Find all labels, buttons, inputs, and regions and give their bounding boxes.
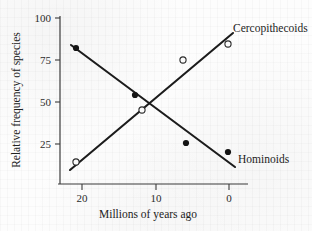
hominoids-point-2	[132, 92, 138, 98]
y-tick-label-75: 75	[40, 54, 52, 66]
hominoids-point-1	[73, 45, 79, 51]
y-tick-label-100: 100	[35, 12, 52, 24]
cercopithecoids-series-label: Cercopithecoids	[233, 22, 308, 35]
y-tick-label-group: 100 75 50 25	[35, 12, 52, 150]
y-tick-label-25: 25	[40, 138, 52, 150]
y-tick-label-50: 50	[40, 96, 52, 108]
series-cercopithecoids: Cercopithecoids	[70, 22, 308, 170]
cercopithecoids-point-2	[139, 107, 145, 113]
y-axis-title: Relative frequency of species	[10, 32, 23, 168]
cercopithecoids-trend-line	[70, 33, 233, 170]
hominoids-point-3	[183, 140, 189, 146]
chart-svg: 100 75 50 25 20 10 0 Millions of years a…	[0, 0, 312, 231]
hominoids-series-label: Hominoids	[238, 153, 290, 165]
x-axis-title: Millions of years ago	[99, 208, 197, 221]
hominoids-point-4	[225, 149, 231, 155]
series-hominoids: Hominoids	[71, 45, 290, 167]
x-tick-label-20: 20	[77, 192, 89, 204]
cercopithecoids-point-3	[180, 57, 186, 63]
chart-figure: 100 75 50 25 20 10 0 Millions of years a…	[0, 0, 312, 231]
cercopithecoids-point-1	[73, 159, 79, 165]
x-tick-label-group: 20 10 0	[77, 192, 233, 204]
axis-group	[55, 16, 248, 190]
cercopithecoids-point-4	[225, 41, 231, 47]
x-tick-label-0: 0	[226, 192, 232, 204]
x-tick-label-10: 10	[151, 192, 163, 204]
